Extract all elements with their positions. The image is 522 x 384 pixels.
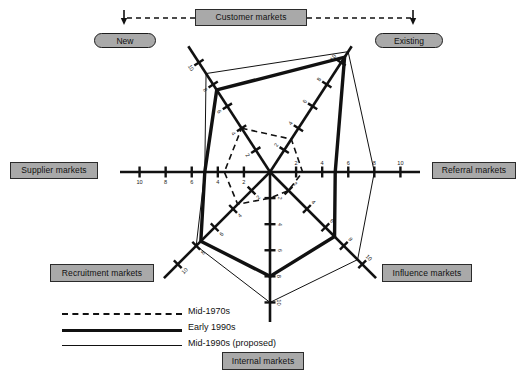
legend-label-mid-1990s: Mid-1990s (proposed) bbox=[188, 338, 276, 348]
axis-tick-label-internal-10: 10 bbox=[276, 299, 282, 305]
axis-tick-label-existing-6: 6 bbox=[301, 98, 308, 104]
axis-tick-label-new-6: 6 bbox=[216, 109, 223, 115]
legend-item-early-1990s: Early 1990s bbox=[62, 322, 262, 338]
legend-item-mid-1970s: Mid-1970s bbox=[62, 306, 262, 322]
axis-tick-label-referral-2: 2 bbox=[295, 160, 298, 166]
axis-tick-label-new-2: 2 bbox=[244, 152, 251, 158]
arrow-down-new-icon bbox=[121, 18, 127, 25]
label-referral-markets: Referral markets bbox=[432, 162, 516, 179]
axis-tick-label-supplier-6: 6 bbox=[190, 179, 193, 185]
legend-item-mid-1990s: Mid-1990s (proposed) bbox=[62, 338, 262, 354]
arrow-down-existing-icon bbox=[410, 18, 416, 25]
axis-tick-label-recruitment-4: 4 bbox=[237, 212, 243, 218]
axis-tick-label-existing-8: 8 bbox=[316, 76, 323, 82]
axis-tick-label-influence-8: 8 bbox=[347, 236, 353, 242]
axis-tick-label-referral-10: 10 bbox=[397, 160, 403, 166]
legend-swatch-thick bbox=[62, 329, 182, 332]
axis-line-new bbox=[188, 46, 270, 172]
axis-tick-label-supplier-2: 2 bbox=[242, 179, 245, 185]
axis-tick-label-internal-2: 2 bbox=[277, 197, 283, 200]
axis-tick-label-new-4: 4 bbox=[230, 130, 237, 136]
axis-tick-label-recruitment-2: 2 bbox=[255, 194, 261, 200]
axis-tick-label-referral-6: 6 bbox=[347, 160, 350, 166]
label-recruitment-markets: Recruitment markets bbox=[50, 264, 154, 282]
label-existing-customers: Existing bbox=[375, 33, 443, 48]
legend: Mid-1970s Early 1990s Mid-1990s (propose… bbox=[62, 306, 262, 356]
axis-tick-label-internal-4: 4 bbox=[277, 223, 283, 226]
axis-tick-label-supplier-10: 10 bbox=[136, 179, 142, 185]
legend-label-mid-1970s: Mid-1970s bbox=[188, 306, 230, 316]
axis-tick-label-referral-8: 8 bbox=[373, 160, 376, 166]
legend-swatch-thin bbox=[62, 345, 182, 346]
diagram-canvas: 2468102468102468102468102468102468102468… bbox=[0, 0, 522, 384]
axis-tick-label-existing-2: 2 bbox=[273, 142, 280, 148]
axis-tick-label-internal-6: 6 bbox=[277, 249, 283, 252]
label-new-customers: New bbox=[94, 33, 156, 48]
axis-tick-label-internal-8: 8 bbox=[276, 275, 282, 278]
axis-tick-label-supplier-4: 4 bbox=[216, 179, 219, 185]
legend-label-early-1990s: Early 1990s bbox=[188, 322, 236, 332]
label-influence-markets: Influence markets bbox=[382, 264, 472, 282]
legend-swatch-dashed bbox=[62, 313, 182, 315]
axis-tick-label-influence-4: 4 bbox=[310, 199, 316, 205]
axis-tick-label-recruitment-6: 6 bbox=[218, 231, 224, 237]
axis-tick-label-supplier-8: 8 bbox=[164, 179, 167, 185]
axis-tick-label-new-8: 8 bbox=[202, 87, 209, 93]
axis-tick-label-referral-4: 4 bbox=[321, 160, 324, 166]
axis-tick-label-existing-4: 4 bbox=[287, 120, 294, 126]
axis-line-influence bbox=[270, 172, 376, 278]
label-supplier-markets: Supplier markets bbox=[10, 162, 98, 179]
label-customer-markets: Customer markets bbox=[195, 9, 307, 26]
